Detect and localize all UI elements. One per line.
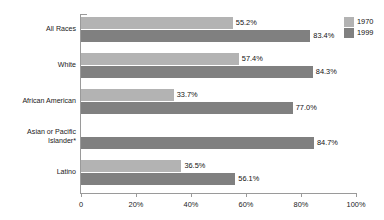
bar-1999-1 — [81, 30, 310, 42]
x-axis-tick — [136, 193, 137, 197]
category-axis-labels: All RacesWhiteAfrican AmericanAsian or P… — [0, 0, 77, 193]
category-label: Latino — [57, 168, 76, 176]
category-label: All Races — [46, 25, 76, 33]
bar-value-label: 77.0% — [296, 102, 317, 114]
legend-label: 1970 — [357, 16, 373, 27]
bar-value-label: 56.1% — [238, 173, 259, 185]
x-axis-tick-label: 20% — [129, 200, 144, 209]
x-axis-tick-label: 60% — [239, 200, 254, 209]
bar-value-label: 83.4% — [313, 30, 334, 42]
legend-swatch-1999 — [344, 28, 354, 38]
category-label: White — [58, 61, 76, 69]
category-label: Asian or Pacific Islander* — [27, 128, 76, 145]
bar-1999-2 — [81, 66, 313, 78]
legend-swatch-1970 — [344, 17, 354, 27]
category-label: African American — [22, 97, 76, 105]
x-axis-tick-label: 80% — [294, 200, 309, 209]
x-axis-tick — [301, 193, 302, 197]
category-axis-line — [80, 193, 357, 194]
bar-value-label: 84.3% — [316, 66, 337, 78]
x-axis-tick — [81, 193, 82, 197]
x-axis-tick — [246, 193, 247, 197]
bar-1970-5 — [81, 160, 181, 172]
bar-1970-1 — [81, 17, 233, 29]
x-axis-tick-label: 40% — [184, 200, 199, 209]
bar-1999-4 — [81, 137, 314, 149]
bar-1970-3 — [81, 89, 174, 101]
bar-value-label: 33.7% — [177, 89, 198, 101]
bar-value-label: 55.2% — [236, 17, 257, 29]
bar-chart: All RacesWhiteAfrican AmericanAsian or P… — [0, 0, 384, 220]
bar-1999-3 — [81, 102, 293, 114]
x-axis-tick-label: 0 — [79, 200, 83, 209]
legend-label: 1999 — [357, 27, 373, 38]
axis-top-notch — [80, 14, 87, 15]
x-axis-tick-label: 100% — [347, 200, 366, 209]
bar-value-label: 84.7% — [317, 137, 338, 149]
bar-value-label: 57.4% — [242, 53, 263, 65]
x-axis-tick — [191, 193, 192, 197]
bar-value-label: 36.5% — [184, 160, 205, 172]
bar-1970-2 — [81, 53, 239, 65]
x-axis-tick — [356, 193, 357, 197]
bar-1999-5 — [81, 173, 235, 185]
plot-area: 020%40%60%80%100% 55.2%57.4%33.7%36.5%83… — [81, 14, 356, 193]
